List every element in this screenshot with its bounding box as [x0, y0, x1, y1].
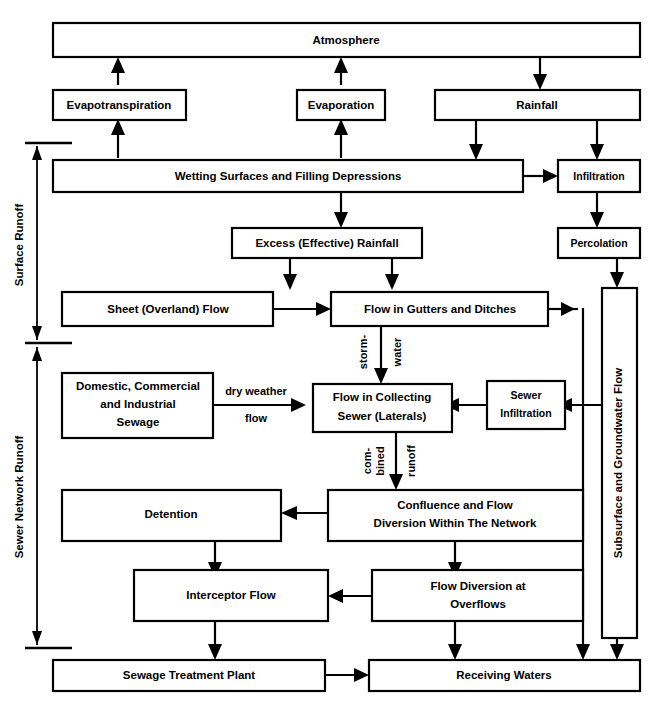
- edge-label-combined-runoff: com- bined runoff: [361, 445, 417, 477]
- node-receiving-waters-label: Receiving Waters: [456, 669, 551, 681]
- node-sewage-sources-line3: Sewage: [117, 416, 160, 428]
- node-flow-diversion-line2: Overflows: [450, 598, 506, 610]
- node-confluence-line2: Diversion Within The Network: [374, 517, 537, 529]
- node-confluence-line1: Confluence and Flow: [397, 499, 513, 511]
- node-excess-rainfall-label: Excess (Effective) Rainfall: [255, 237, 398, 249]
- bracket-label-sewer-network-runoff: Sewer Network Runoff: [13, 435, 25, 558]
- node-detention[interactable]: Detention: [62, 490, 281, 541]
- node-wetting-surfaces[interactable]: Wetting Surfaces and Filling Depressions: [53, 160, 523, 192]
- edge-label-combined-right: runoff: [405, 445, 417, 477]
- node-wetting-surfaces-label: Wetting Surfaces and Filling Depressions: [175, 170, 402, 182]
- node-rainfall-label: Rainfall: [516, 99, 558, 111]
- edge-label-stormwater: storm- water: [357, 335, 403, 370]
- node-subsurface-groundwater-flow[interactable]: Subsurface and Groundwater Flow: [602, 288, 637, 638]
- node-infiltration[interactable]: Infiltration: [558, 160, 640, 192]
- node-excess-rainfall[interactable]: Excess (Effective) Rainfall: [232, 228, 422, 258]
- node-sewage-treatment-plant-label: Sewage Treatment Plant: [123, 669, 255, 681]
- node-receiving-waters[interactable]: Receiving Waters: [369, 660, 640, 691]
- node-subsurface-groundwater-flow-label: Subsurface and Groundwater Flow: [612, 368, 624, 558]
- edge-label-storm-right: water: [391, 337, 403, 367]
- node-interceptor-flow[interactable]: Interceptor Flow: [134, 570, 328, 621]
- node-flow-in-gutters-label: Flow in Gutters and Ditches: [364, 303, 516, 315]
- node-sewer-infiltration-line2: Infiltration: [500, 407, 551, 419]
- node-sewage-sources-line2: and Industrial: [100, 398, 175, 410]
- nodes-layer: Atmosphere Evapotranspiration Evaporatio…: [0, 0, 657, 704]
- flowchart-diagram: Atmosphere Evapotranspiration Evaporatio…: [0, 0, 657, 704]
- node-collecting-sewer[interactable]: Flow in Collecting Sewer (Laterals): [313, 384, 452, 432]
- node-evaporation[interactable]: Evaporation: [297, 90, 385, 120]
- edge-label-storm-left: storm-: [357, 335, 369, 370]
- node-percolation[interactable]: Percolation: [558, 228, 640, 258]
- edge-label-combined-line2: bined: [374, 446, 386, 475]
- edge-label-combined-line1: com-: [361, 448, 373, 475]
- node-sewage-sources-line1: Domestic, Commercial: [76, 380, 200, 392]
- node-rainfall[interactable]: Rainfall: [435, 90, 640, 120]
- node-detention-label: Detention: [144, 508, 197, 520]
- edge-label-dry-weather-top: dry weather: [225, 385, 287, 397]
- node-evapotranspiration-label: Evapotranspiration: [67, 99, 172, 111]
- node-interceptor-flow-label: Interceptor Flow: [186, 589, 276, 601]
- bracket-label-surface-runoff: Surface Runoff: [13, 204, 25, 287]
- node-flow-diversion-line1: Flow Diversion at: [430, 580, 525, 592]
- node-atmosphere[interactable]: Atmosphere: [53, 23, 640, 57]
- node-confluence-and-flow-diversion[interactable]: Confluence and Flow Diversion Within The…: [328, 490, 583, 541]
- node-percolation-label: Percolation: [570, 237, 627, 249]
- node-collecting-sewer-line1: Flow in Collecting: [333, 391, 431, 403]
- node-atmosphere-label: Atmosphere: [312, 34, 379, 46]
- node-collecting-sewer-line2: Sewer (Laterals): [338, 410, 427, 422]
- edge-label-dry-weather-flow: dry weather flow: [225, 385, 287, 424]
- node-evaporation-label: Evaporation: [308, 99, 374, 111]
- node-flow-in-gutters[interactable]: Flow in Gutters and Ditches: [331, 292, 548, 326]
- node-infiltration-label: Infiltration: [573, 170, 624, 182]
- node-sheet-overland-flow[interactable]: Sheet (Overland) Flow: [62, 292, 273, 326]
- edge-label-dry-weather-bottom: flow: [245, 412, 267, 424]
- node-sewer-infiltration-line1: Sewer: [511, 389, 542, 401]
- node-sewer-infiltration[interactable]: Sewer Infiltration: [487, 381, 565, 429]
- node-sheet-overland-flow-label: Sheet (Overland) Flow: [107, 303, 228, 315]
- node-sewage-sources[interactable]: Domestic, Commercial and Industrial Sewa…: [62, 373, 213, 438]
- node-flow-diversion-at-overflows[interactable]: Flow Diversion at Overflows: [372, 570, 583, 621]
- node-sewage-treatment-plant[interactable]: Sewage Treatment Plant: [53, 660, 325, 691]
- node-evapotranspiration[interactable]: Evapotranspiration: [53, 90, 186, 120]
